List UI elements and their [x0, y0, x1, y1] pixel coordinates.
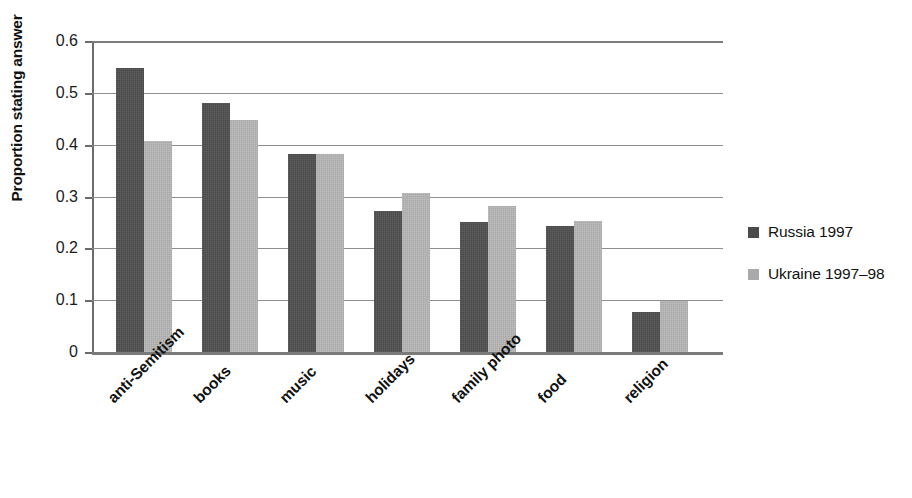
y-axis-tick-label: 0.4: [32, 136, 78, 154]
chart-legend: Russia 1997 Ukraine 1997–98: [748, 222, 885, 306]
y-axis-tick: [85, 248, 92, 250]
legend-label-ukraine: Ukraine 1997–98: [768, 265, 885, 283]
y-axis-tick: [85, 41, 92, 43]
y-axis-tick-labels: 00.10.20.30.40.50.6: [30, 41, 78, 354]
bar-russia-family-photo: [460, 222, 488, 352]
y-axis-tick-label: 0: [32, 343, 78, 361]
bar-ukraine-religion: [660, 301, 688, 352]
legend-item-ukraine: Ukraine 1997–98: [748, 264, 885, 284]
x-axis-label-food: food: [534, 371, 570, 407]
x-axis-label-holidays: holidays: [362, 350, 419, 407]
x-axis-label-books: books: [190, 362, 235, 407]
bar-russia-food: [546, 226, 574, 352]
y-axis-tick-label: 0.3: [32, 188, 78, 206]
legend-item-russia: Russia 1997: [748, 222, 885, 242]
y-axis-tick: [85, 300, 92, 302]
y-axis-tick: [85, 197, 92, 199]
y-axis-tick-label: 0.5: [32, 84, 78, 102]
plot-area: [92, 41, 723, 354]
bar-ukraine-food: [574, 221, 602, 352]
legend-swatch-icon-russia: [748, 227, 759, 238]
bar-ukraine-anti-semitism: [144, 141, 172, 352]
y-axis-tick: [85, 93, 92, 95]
bar-russia-anti-semitism: [116, 68, 144, 352]
bar-russia-religion: [632, 312, 660, 352]
y-axis-tick-label: 0.1: [32, 291, 78, 309]
bar-ukraine-music: [316, 154, 344, 352]
bar-russia-holidays: [374, 211, 402, 353]
x-axis-label-music: music: [276, 363, 320, 407]
bar-russia-music: [288, 154, 316, 352]
bar-series-group: [92, 41, 723, 352]
cut-off-caption: [110, 494, 670, 498]
y-axis-tick: [85, 352, 92, 354]
x-axis-label-religion: religion: [620, 355, 672, 407]
legend-label-russia: Russia 1997: [768, 223, 853, 241]
bar-ukraine-books: [230, 120, 258, 352]
y-axis-tick: [85, 145, 92, 147]
y-axis-tick-label: 0.6: [32, 32, 78, 50]
y-axis-tick-label: 0.2: [32, 239, 78, 257]
bar-chart-figure: Proportion stating answer 00.10.20.30.40…: [0, 0, 912, 498]
y-axis-title: Proportion stating answer: [4, 0, 30, 221]
legend-swatch-icon-ukraine: [748, 269, 759, 280]
bar-russia-books: [202, 103, 230, 352]
bar-ukraine-holidays: [402, 193, 430, 352]
